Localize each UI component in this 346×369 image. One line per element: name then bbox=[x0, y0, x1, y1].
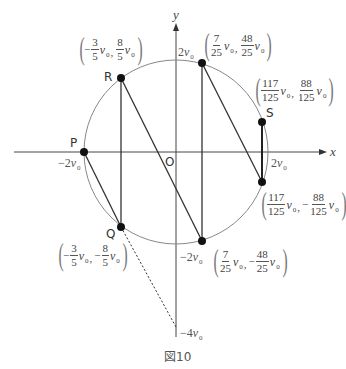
x-sign: − bbox=[84, 43, 90, 55]
x-numerator: 117 bbox=[267, 192, 285, 205]
coordinate-label-top: ( 725 v0 , 4825 v0 ) bbox=[203, 30, 271, 60]
y-denominator: 5 bbox=[102, 256, 110, 268]
dotted-extension-q bbox=[121, 227, 176, 327]
y-denominator: 25 bbox=[256, 262, 269, 274]
figure-10: y x O P R S Q 2v0 −2v0 2v0 −2v0 −4v0 ( −… bbox=[0, 0, 346, 369]
velocity-symbol: v bbox=[193, 326, 198, 340]
x-numerator: 7 bbox=[222, 249, 230, 262]
diagram-canvas bbox=[0, 0, 346, 369]
y-numerator: 48 bbox=[241, 33, 254, 46]
point-label-q: Q bbox=[106, 227, 115, 241]
tick-coef: −4 bbox=[180, 326, 193, 340]
open-paren: ( bbox=[262, 189, 265, 219]
x-fraction: 35 bbox=[70, 243, 78, 268]
y-fraction: 4825 bbox=[256, 249, 269, 274]
x-numerator: 7 bbox=[213, 33, 221, 46]
y-fraction: 88125 bbox=[297, 78, 316, 103]
separator: , bbox=[235, 42, 238, 54]
x-numerator: 3 bbox=[70, 243, 78, 256]
velocity-subscript: 0 bbox=[116, 257, 120, 265]
tick-y-bottom: −2v0 bbox=[180, 250, 203, 265]
separator: , bbox=[111, 46, 114, 58]
separator: , bbox=[297, 201, 300, 213]
point-bottom bbox=[198, 237, 206, 245]
velocity-symbol: v0 bbox=[125, 43, 135, 58]
close-paren: ) bbox=[282, 246, 285, 276]
velocity-subscript: 0 bbox=[77, 164, 81, 172]
y-sign: − bbox=[94, 249, 100, 261]
velocity-letter: v bbox=[79, 249, 84, 263]
velocity-letter: v bbox=[281, 84, 286, 98]
tick-x-left: −2v0 bbox=[58, 156, 81, 171]
segment-r-bottom bbox=[121, 78, 202, 241]
x-fraction: 117125 bbox=[267, 192, 286, 217]
velocity-letter: v bbox=[255, 39, 260, 53]
velocity-letter: v bbox=[270, 255, 275, 269]
velocity-symbol: v0 bbox=[79, 249, 89, 264]
x-axis-label: x bbox=[330, 145, 336, 159]
y-fraction: 85 bbox=[116, 37, 124, 62]
x-denominator: 25 bbox=[210, 46, 223, 58]
velocity-symbol: v0 bbox=[281, 84, 291, 99]
y-fraction: 88125 bbox=[309, 192, 328, 217]
velocity-symbol: v0 bbox=[329, 198, 339, 213]
point-label-s: S bbox=[266, 106, 274, 120]
segment-top-s2 bbox=[202, 63, 262, 182]
velocity-letter: v bbox=[125, 43, 130, 57]
velocity-subscript: 0 bbox=[287, 92, 291, 100]
tick-y-lower-end: −4v0 bbox=[180, 326, 203, 341]
velocity-subscript: 0 bbox=[323, 92, 327, 100]
open-paren: ( bbox=[256, 75, 259, 105]
segment-p-q bbox=[84, 152, 121, 227]
velocity-symbol: v bbox=[277, 156, 282, 170]
x-denominator: 125 bbox=[261, 91, 280, 103]
y-denominator: 5 bbox=[116, 50, 124, 62]
point-label-p: P bbox=[70, 136, 77, 150]
velocity-letter: v bbox=[224, 39, 229, 53]
y-fraction: 4825 bbox=[241, 33, 254, 58]
x-sign: − bbox=[63, 249, 69, 261]
velocity-subscript: 0 bbox=[230, 47, 234, 55]
velocity-symbol: v bbox=[193, 250, 198, 264]
open-paren: ( bbox=[214, 246, 217, 276]
velocity-letter: v bbox=[329, 198, 334, 212]
y-sign: − bbox=[302, 198, 308, 210]
point-q bbox=[117, 223, 125, 231]
origin-label: O bbox=[165, 155, 174, 169]
velocity-subscript: 0 bbox=[199, 334, 203, 342]
velocity-letter: v bbox=[287, 198, 292, 212]
velocity-subscript: 0 bbox=[335, 206, 339, 214]
x-denominator: 5 bbox=[91, 50, 99, 62]
point-s bbox=[258, 118, 266, 126]
x-fraction: 35 bbox=[91, 37, 99, 62]
x-denominator: 125 bbox=[267, 205, 286, 217]
coordinate-label-q: ( − 35 v0 , − 85 v0 ) bbox=[57, 240, 127, 270]
velocity-subscript: 0 bbox=[239, 263, 243, 271]
velocity-symbol: v bbox=[71, 156, 76, 170]
y-axis-label: y bbox=[173, 8, 179, 22]
velocity-symbol: v0 bbox=[224, 39, 234, 54]
coordinate-label-r: ( − 35 v0 , 85 v0 ) bbox=[78, 34, 142, 64]
velocity-letter: v bbox=[233, 255, 238, 269]
y-sign: − bbox=[249, 255, 255, 267]
close-paren: ) bbox=[341, 189, 344, 219]
velocity-subscript: 0 bbox=[261, 47, 265, 55]
y-numerator: 48 bbox=[256, 249, 269, 262]
y-axis-arrow-icon bbox=[173, 23, 179, 31]
velocity-letter: v bbox=[110, 249, 115, 263]
x-numerator: 117 bbox=[261, 78, 279, 91]
velocity-symbol: v0 bbox=[270, 255, 280, 270]
open-paren: ( bbox=[59, 240, 62, 270]
x-fraction: 117125 bbox=[261, 78, 280, 103]
open-paren: ( bbox=[205, 30, 208, 60]
coordinate-label-bottom: ( 725 v0 , − 4825 v0 ) bbox=[212, 246, 287, 276]
velocity-subscript: 0 bbox=[190, 53, 194, 61]
close-paren: ) bbox=[267, 30, 270, 60]
point-s2 bbox=[258, 178, 266, 186]
velocity-symbol: v0 bbox=[233, 255, 243, 270]
velocity-symbol: v0 bbox=[110, 249, 120, 264]
y-denominator: 125 bbox=[309, 205, 328, 217]
figure-caption: 図10 bbox=[164, 350, 191, 364]
x-axis-arrow-icon bbox=[319, 149, 327, 155]
y-numerator: 88 bbox=[300, 78, 313, 91]
